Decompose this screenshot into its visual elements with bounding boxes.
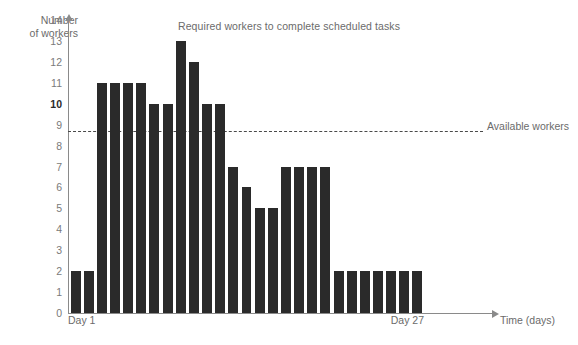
y-tick-3: 3 [32, 244, 62, 256]
y-tick-5: 5 [32, 202, 62, 214]
y-tick-9: 9 [32, 119, 62, 131]
bar[interactable] [399, 271, 409, 313]
bar[interactable] [71, 271, 81, 313]
bar[interactable] [189, 62, 199, 313]
bar[interactable] [347, 271, 357, 313]
y-tick-13: 13 [32, 35, 62, 47]
bar[interactable] [84, 271, 94, 313]
x-axis-title: Time (days) [500, 314, 555, 326]
y-tick-8: 8 [32, 140, 62, 152]
y-tick-11: 11 [32, 77, 62, 89]
bar[interactable] [334, 271, 344, 313]
bar[interactable] [123, 83, 133, 313]
bar[interactable] [176, 41, 186, 313]
y-tick-1: 1 [32, 286, 62, 298]
x-axis-start-label: Day 1 [68, 314, 95, 326]
bar[interactable] [163, 104, 173, 313]
y-tick-4: 4 [32, 223, 62, 235]
bar[interactable] [228, 167, 238, 314]
y-tick-0: 0 [32, 307, 62, 319]
bar[interactable] [136, 83, 146, 313]
bars-plot-area [69, 20, 494, 313]
bar[interactable] [386, 271, 396, 313]
bar[interactable] [255, 208, 265, 313]
bar[interactable] [202, 104, 212, 313]
bar[interactable] [149, 104, 159, 313]
y-tick-14: 14 [32, 14, 62, 26]
y-tick-10: 10 [32, 98, 62, 110]
available-workers-label: Available workers [487, 120, 569, 132]
bar[interactable] [97, 83, 107, 313]
bar[interactable] [320, 167, 330, 314]
bar[interactable] [268, 208, 278, 313]
chart-container: Required workers to complete scheduled t… [0, 0, 578, 345]
bar[interactable] [110, 83, 120, 313]
y-tick-6: 6 [32, 181, 62, 193]
bar[interactable] [360, 271, 370, 313]
bar[interactable] [294, 167, 304, 314]
y-tick-12: 12 [32, 56, 62, 68]
bar[interactable] [215, 104, 225, 313]
bar[interactable] [412, 271, 422, 313]
bar[interactable] [242, 187, 252, 313]
x-axis-line [68, 313, 494, 314]
bar[interactable] [281, 167, 291, 314]
y-tick-2: 2 [32, 265, 62, 277]
y-tick-7: 7 [32, 161, 62, 173]
bar[interactable] [307, 167, 317, 314]
x-axis-end-label: Day 27 [391, 314, 424, 326]
bar[interactable] [373, 271, 383, 313]
